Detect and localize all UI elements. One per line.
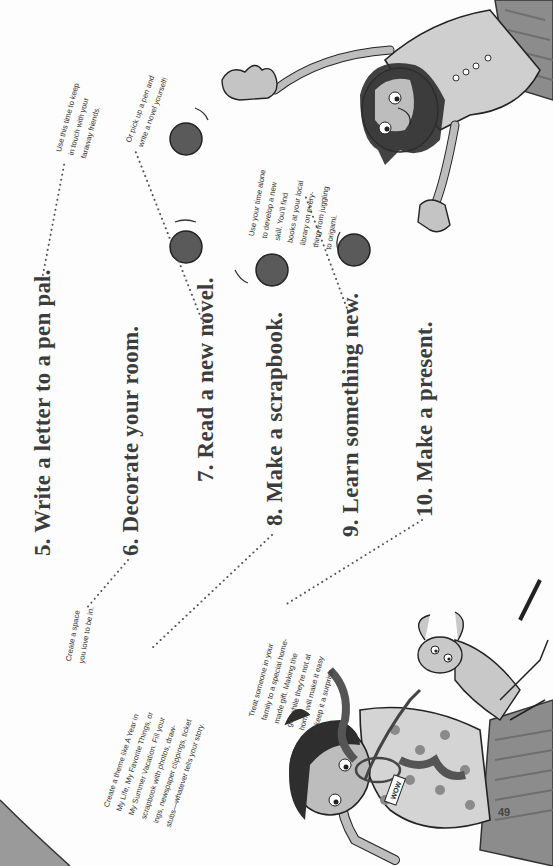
page-number: 49: [498, 806, 510, 818]
headline-item-6: 6. Decorate your room.: [118, 326, 144, 556]
headline-item-5: 5. Write a letter to a pen pal.: [30, 269, 56, 556]
ball-icon: [170, 231, 202, 263]
leader-lines: [40, 150, 422, 650]
ball-icon: [170, 123, 202, 155]
ball-icon: [338, 234, 370, 266]
headline-item-7: 7. Read a new novel.: [193, 277, 219, 482]
leader-line-8: [150, 535, 272, 650]
headline-item-9: 9. Learn something new.: [338, 293, 364, 537]
headline-item-8: 8. Make a scrapbook.: [262, 312, 288, 526]
headline-item-10: 10. Make a present.: [412, 321, 438, 517]
leader-line-6: [85, 560, 128, 610]
ball-icon: [256, 254, 288, 286]
gift-girl-illustration: WOW: [285, 580, 553, 866]
